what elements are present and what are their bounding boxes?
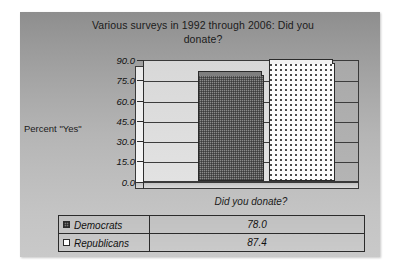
- legend-item-republicans[interactable]: Republicans: [59, 234, 150, 252]
- chart-page: Various surveys in 1992 through 2006: Di…: [0, 0, 407, 272]
- y-tick-label-90: 90.0: [117, 55, 136, 66]
- y-tick-mark-30: [137, 141, 144, 142]
- y-tick-mark-75: [137, 80, 144, 81]
- data-table: Democrats 78.0 Republicans 87.4: [58, 215, 365, 252]
- chart-title-line-2: donate?: [58, 32, 348, 46]
- x-axis-label: Did you donate?: [143, 196, 359, 207]
- bar-democrats-top-face: [198, 71, 262, 76]
- bar-republicans-top-face: [269, 59, 333, 64]
- value-republicans: 87.4: [150, 234, 365, 252]
- legend-label-democrats: Democrats: [74, 219, 122, 230]
- bar-republicans[interactable]: [269, 63, 335, 181]
- y-tick-mark-90: [137, 60, 144, 61]
- y-tick-label-15: 15.0: [117, 156, 136, 167]
- y-tick-mark-45: [137, 121, 144, 122]
- y-tick-mark-15: [137, 161, 144, 162]
- plot-left-wall: [135, 66, 143, 182]
- y-tick-label-30: 30.0: [117, 136, 136, 147]
- plot-area: 90.0 75.0 60.0 45.0 30.0 15.0: [135, 60, 360, 188]
- chart-title: Various surveys in 1992 through 2006: Di…: [58, 18, 348, 46]
- y-tick-label-45: 45.0: [117, 116, 136, 127]
- y-tick-label-60: 60.0: [117, 96, 136, 107]
- table-row[interactable]: Republicans 87.4: [59, 234, 365, 252]
- y-tick-label-75: 75.0: [117, 75, 136, 86]
- y-tick-mark-0: [137, 182, 144, 183]
- legend-swatch-democrats-icon: [63, 221, 70, 228]
- y-tick-mark-60: [137, 101, 144, 102]
- plot-floor: [135, 182, 359, 189]
- value-democrats: 78.0: [150, 216, 365, 234]
- y-axis-title: Percent "Yes": [24, 123, 82, 134]
- chart-panel: Various surveys in 1992 through 2006: Di…: [20, 12, 380, 257]
- table-row[interactable]: Democrats 78.0: [59, 216, 365, 234]
- chart-title-line-1: Various surveys in 1992 through 2006: Di…: [58, 18, 348, 32]
- legend-item-democrats[interactable]: Democrats: [59, 216, 150, 234]
- bar-democrats[interactable]: [198, 75, 264, 181]
- y-tick-label-0: 0.0: [122, 177, 135, 188]
- legend-swatch-republicans-icon: [63, 239, 70, 246]
- legend-label-republicans: Republicans: [74, 237, 129, 248]
